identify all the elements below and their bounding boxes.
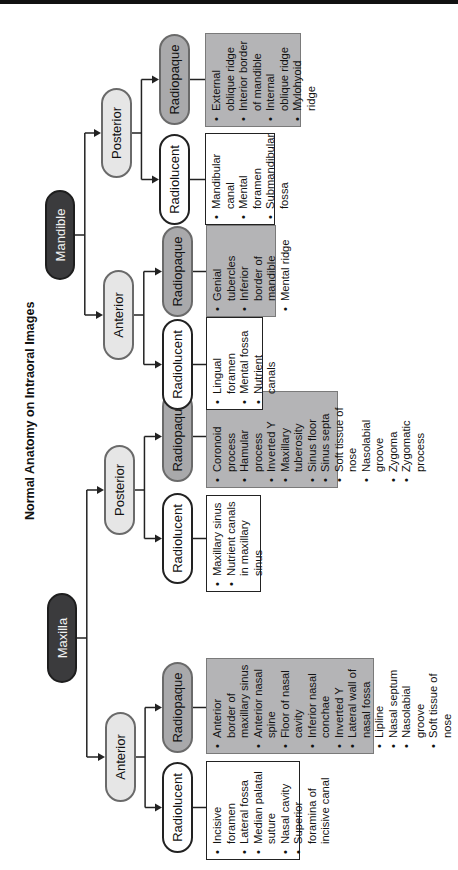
list-item: Median palatal suture — [252, 767, 279, 854]
list-mandible-posterior-radiopaque: External oblique ridge Interior border o… — [205, 33, 301, 127]
list-item: Internal oblique ridge — [264, 39, 291, 121]
list-item: Mental ridge — [279, 231, 293, 311]
list-item: Lingual foramen — [211, 323, 238, 404]
connector-maxilla-posterior-arrowhead-0 — [155, 535, 162, 543]
list-item: Mandibular canal — [210, 139, 237, 219]
list-item: Incisive foramen — [211, 767, 238, 854]
diagram-title: Normal Anatomy on Intraoral Images — [23, 302, 37, 520]
connector-mandible-posterior-arrowhead-1 — [152, 76, 159, 84]
list-item: External oblique ridge — [210, 39, 237, 121]
node-mandible-posterior-radiopaque: Radiopaque — [159, 34, 190, 125]
list-item: Nasal septum — [387, 664, 401, 748]
list-item: Lateral wall of nasal fossa — [346, 664, 373, 748]
list-maxilla-anterior-radiopaque: Anterior border of maxillary sinus Anter… — [206, 658, 374, 754]
connector-mandible-anterior-arrowhead-0 — [155, 361, 162, 369]
list-item: Inverted Y — [265, 397, 279, 482]
list-item: Genial tubercles — [211, 231, 238, 311]
node-mandible-posterior-radiolucent: Radiolucent — [159, 134, 190, 225]
list-item: Zygoma — [387, 397, 401, 482]
anatomy-diagram: Normal Anatomy on Intraoral Images Maxil… — [0, 0, 458, 870]
list-maxilla-posterior-radiolucent: Maxillary sinus Nutrient canals in maxil… — [206, 495, 261, 592]
list-item: Nutrient canals in maxillary sinus — [225, 501, 266, 586]
connector-mandible-arrowhead-1 — [94, 129, 101, 137]
list-item: Zygomatic process — [400, 397, 427, 482]
list-item: Superior foramina of incisive canal — [292, 767, 333, 854]
connector-mandible-posterior-arrowhead-0 — [152, 176, 159, 184]
list-mandible-posterior-radiolucent: Mandibular canal Mental foramen Submandi… — [205, 133, 275, 225]
list-item: Sinus floor — [306, 397, 320, 482]
list-item: Lateral fossa — [238, 767, 252, 854]
list-item: Maxillary sinus — [211, 501, 225, 586]
list-item: Mental foramen — [237, 139, 264, 219]
list-item: Anterior border of maxillary sinus — [211, 664, 252, 748]
node-mandible-anterior-radiolucent: Radiolucent — [162, 319, 193, 410]
list-item: Maxillary tuberosity — [279, 397, 306, 482]
list-item: Inferior nasal conchae — [306, 664, 333, 748]
list-item: Lipline — [373, 664, 387, 748]
list-item: Interior border of mandible — [237, 39, 264, 121]
list-item: Mylohyoid ridge — [291, 39, 318, 121]
node-maxilla: Maxilla — [47, 593, 77, 683]
node-mandible-anterior: Anterior — [103, 270, 134, 360]
list-mandible-anterior-radiolucent: Lingual foramen Mental fossa Nutrient ca… — [206, 317, 263, 410]
node-maxilla-posterior: Posterior — [104, 445, 135, 535]
node-mandible-anterior-radiopaque: Radiopaque — [162, 226, 193, 317]
node-maxilla-posterior-radiolucent: Radiolucent — [162, 493, 193, 584]
list-item: Nasolabial groove — [360, 397, 387, 482]
list-item: Mental fossa — [238, 323, 252, 404]
list-item: Inferior border of mandible — [238, 231, 279, 311]
connector-maxilla-arrowhead-1 — [97, 486, 104, 494]
connector-maxilla-posterior-arrowhead-1 — [155, 433, 162, 441]
connector-mandible-anterior-arrowhead-1 — [155, 268, 162, 276]
node-maxilla-anterior-radiolucent: Radiolucent — [162, 762, 193, 853]
connector-mandible-arrowhead-0 — [96, 311, 103, 319]
node-maxilla-anterior-radiopaque: Radiopaque — [162, 662, 193, 753]
connector-maxilla-arrowhead-0 — [98, 753, 105, 761]
list-item: Inverted Y — [333, 664, 347, 748]
list-mandible-anterior-radiopaque: Genial tubercles Inferior border of mand… — [206, 225, 276, 317]
list-item: Soft tissue of nose — [333, 397, 360, 482]
list-item: Anterior nasal spine — [252, 664, 279, 748]
list-item: Nasal cavity — [279, 767, 293, 854]
list-item: Nutrient canals — [252, 323, 279, 404]
list-item: Submandibular fossa — [264, 139, 291, 219]
list-maxilla-anterior-radiolucent: Incisive foramen Lateral fossa Median pa… — [206, 761, 300, 860]
list-item: Soft tissue of nose — [427, 664, 454, 748]
list-item: Floor of nasal cavity — [279, 664, 306, 748]
connector-maxilla-anterior-arrowhead-0 — [155, 804, 162, 812]
list-item: Nasolabial groove — [400, 664, 427, 748]
list-item: Sinus septa — [319, 397, 333, 482]
node-mandible: Mandible — [45, 190, 75, 280]
node-maxilla-anterior: Anterior — [105, 712, 136, 802]
connector-maxilla-anterior-arrowhead-1 — [155, 704, 162, 712]
node-mandible-posterior: Posterior — [101, 88, 132, 178]
